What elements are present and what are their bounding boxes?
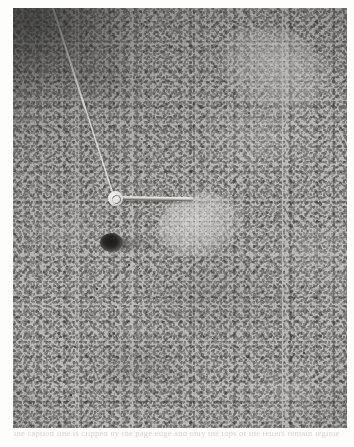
guide-thread-svg — [13, 8, 347, 428]
scanned-page: the caption line is clipped by the page … — [0, 0, 354, 447]
needle-pointer — [121, 196, 193, 202]
guide-thread-shadow — [55, 8, 115, 194]
guide-thread-highlight — [53, 8, 85, 108]
caption-text: the caption line is clipped by the page … — [14, 432, 344, 438]
photomicrograph-plate — [13, 8, 347, 428]
caption-strip: the caption line is clipped by the page … — [14, 432, 344, 447]
